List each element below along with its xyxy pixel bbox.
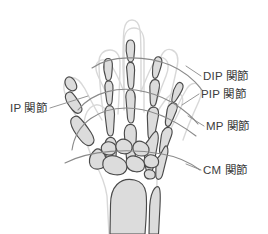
bone-ulna bbox=[149, 187, 160, 234]
bone-carpal-lunate bbox=[126, 156, 144, 172]
bone-carpal-triquetrum bbox=[144, 170, 155, 179]
bone-thumb-distal bbox=[65, 77, 77, 91]
leader-line-cm bbox=[186, 164, 201, 170]
leader-line-dip bbox=[186, 66, 201, 76]
bone-index-middle bbox=[105, 81, 113, 105]
label-ip-joint: IP 関節 bbox=[10, 103, 47, 115]
bone-carpal-trapezoid bbox=[101, 142, 116, 155]
label-dip-joint: DIP 関節 bbox=[203, 71, 248, 83]
bone-radius bbox=[110, 179, 147, 234]
bone-carpal-pisiform bbox=[144, 155, 159, 168]
label-cm-joint: CM 関節 bbox=[203, 165, 247, 177]
bone-carpal-scaphoid bbox=[103, 156, 127, 175]
hand-joint-diagram: DIP 関節 PIP 関節 MP 関節 CM 関節 IP 関節 bbox=[0, 0, 268, 234]
leader-line-pip bbox=[182, 94, 199, 105]
bone-middle-proximal bbox=[126, 90, 135, 123]
label-pip-joint: PIP 関節 bbox=[201, 89, 246, 101]
bone-ring-middle bbox=[150, 80, 160, 107]
bone-middle-middle bbox=[127, 62, 135, 89]
hand-skeleton-icon bbox=[0, 0, 268, 234]
bone-middle-distal bbox=[126, 40, 135, 62]
bone-carpal-capitate bbox=[116, 139, 132, 153]
label-mp-joint: MP 関節 bbox=[206, 121, 249, 133]
